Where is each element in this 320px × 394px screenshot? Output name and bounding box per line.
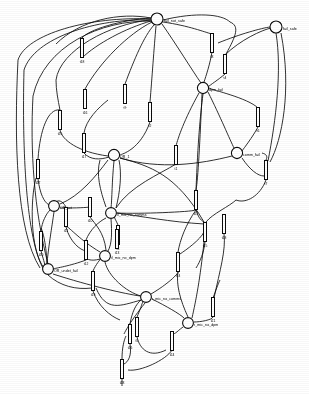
transition-bar[interactable] [212, 298, 215, 317]
place-circle[interactable] [100, 251, 111, 262]
transition-t4[interactable]: t4 [224, 55, 227, 80]
transition-t27[interactable]: t27 [36, 160, 41, 185]
place-r_mic_no_comms[interactable]: r_mic_no_comms [141, 292, 182, 303]
transition-bar[interactable] [177, 253, 180, 272]
transition-label: t17 [82, 155, 87, 159]
transition-bar[interactable] [257, 108, 260, 127]
place-label: fail_not_safe [164, 19, 185, 23]
transition-bar[interactable] [81, 39, 84, 58]
transition-label: t10 [88, 219, 93, 223]
arc [262, 153, 267, 160]
transition-bar[interactable] [40, 232, 43, 251]
transition-label: t19 [91, 293, 96, 297]
arc [111, 161, 114, 208]
arc [180, 232, 204, 254]
place-dpm_fail[interactable]: dpm_fail [197, 82, 223, 93]
transition-bar[interactable] [92, 272, 95, 291]
arc [108, 219, 112, 251]
transition-t5[interactable]: t5 [136, 318, 139, 343]
transition-bar[interactable] [89, 198, 92, 217]
place-circle[interactable] [108, 149, 119, 160]
transition-bar[interactable] [83, 134, 86, 153]
transition-t18[interactable]: t18 [80, 39, 85, 64]
place-fail_safe[interactable]: fail_safe [270, 21, 297, 33]
transition-t17[interactable]: t17 [82, 134, 87, 159]
transition-label: t16 [83, 111, 88, 115]
place-OR_1[interactable]: OR_1 [108, 149, 129, 160]
transition-t10[interactable]: t10 [88, 198, 93, 223]
place-circle[interactable] [151, 13, 163, 25]
transition-t13[interactable]: t13 [115, 230, 120, 255]
transition-bar[interactable] [224, 55, 227, 74]
transition-t9[interactable]: t9 [124, 85, 127, 110]
place-circle[interactable] [197, 82, 208, 93]
transition-bar[interactable] [129, 325, 132, 344]
arc [208, 74, 225, 87]
place-comm_fail[interactable]: comm_fail [231, 147, 260, 158]
transition-t28[interactable]: t28 [120, 360, 125, 385]
place-label: dpm_fail [209, 88, 223, 92]
arc [125, 25, 154, 84]
transition-bar[interactable] [121, 360, 124, 379]
transition-t24[interactable]: t24 [170, 332, 175, 357]
place-circle[interactable] [141, 292, 152, 303]
transition-t6[interactable]: t6 [257, 108, 260, 133]
transition-label: t26 [128, 346, 133, 350]
place-circle[interactable] [43, 264, 54, 275]
transition-bar[interactable] [175, 146, 178, 165]
transition-bar[interactable] [136, 318, 139, 337]
transition-t2[interactable]: t2 [149, 103, 152, 128]
place-circle[interactable] [106, 208, 117, 219]
arc [150, 26, 156, 102]
transition-bar[interactable] [37, 160, 40, 179]
place-label: il_mic_no_dpm [111, 256, 136, 260]
arc [53, 274, 140, 296]
transition-t19[interactable]: t19 [91, 272, 96, 297]
place-circle[interactable] [183, 318, 194, 329]
transition-bar[interactable] [124, 85, 127, 104]
transition-bar[interactable] [116, 230, 119, 249]
transition-t23[interactable]: t23 [222, 215, 227, 240]
place-label: fail_safe [283, 27, 297, 31]
transition-t8[interactable]: t8 [211, 34, 214, 59]
place-label: OR_tot [60, 206, 72, 210]
transition-t1[interactable]: t1 [175, 146, 178, 171]
transition-label: t18 [80, 60, 85, 64]
transition-t25[interactable]: t25 [58, 111, 63, 136]
place-il_mic_no_comms[interactable]: il_mic_no_comms [106, 208, 147, 219]
place-circle[interactable] [231, 147, 242, 158]
transition-bar[interactable] [195, 191, 198, 210]
arc [213, 280, 220, 298]
transition-bar[interactable] [265, 161, 268, 180]
transition-t26[interactable]: t26 [128, 325, 133, 350]
transition-t22[interactable]: t22 [194, 191, 199, 216]
transition-t21[interactable]: t21 [211, 298, 216, 323]
transition-t12[interactable]: t12 [84, 241, 89, 266]
arc [208, 92, 234, 148]
place-circle[interactable] [49, 201, 60, 212]
transition-bar[interactable] [211, 34, 214, 53]
transition-label: t6 [257, 129, 260, 133]
transition-t16[interactable]: t16 [83, 90, 88, 115]
transition-t14[interactable]: t14 [176, 253, 181, 278]
place-label: OR_undet_fail [54, 269, 78, 273]
transition-bar[interactable] [204, 223, 207, 242]
place-OR_tot[interactable]: OR_tot [49, 201, 72, 212]
transition-t15[interactable]: t15 [203, 223, 208, 248]
transition-label: t23 [222, 236, 227, 240]
transition-t20[interactable]: t20 [39, 232, 44, 257]
transition-bar[interactable] [84, 90, 87, 109]
transition-bar[interactable] [223, 215, 226, 234]
transition-label: t21 [211, 319, 216, 323]
place-OR_undet_fail[interactable]: OR_undet_fail [43, 264, 78, 275]
transition-bar[interactable] [171, 332, 174, 351]
transition-t11[interactable]: t11 [64, 208, 69, 233]
transition-t7[interactable]: t7 [265, 161, 268, 186]
transition-bar[interactable] [65, 208, 68, 227]
arc [60, 160, 108, 204]
transition-bar[interactable] [149, 103, 152, 122]
transition-bar[interactable] [85, 241, 88, 260]
transition-label: t5 [136, 339, 139, 343]
place-circle[interactable] [270, 21, 282, 33]
transition-bar[interactable] [59, 111, 62, 130]
